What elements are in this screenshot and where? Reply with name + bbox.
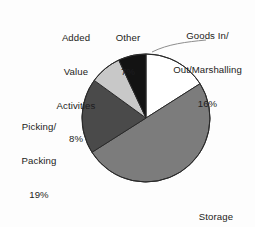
leader-line-goods-in [152, 40, 206, 52]
pie-chart-graphic [0, 0, 255, 227]
pie-chart: Goods In/ Out/Marshalling 16% Other 7% A… [0, 0, 255, 227]
